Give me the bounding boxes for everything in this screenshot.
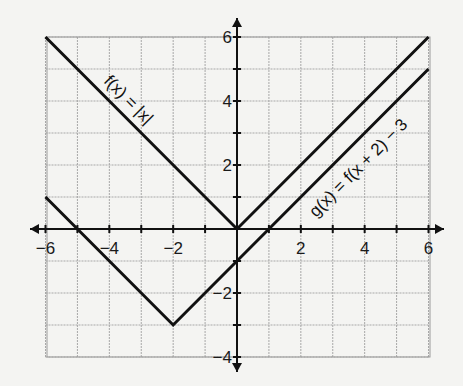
graph: −6−4−2246642−2−4 f(x) = |x| g(x) = f(x +… — [0, 0, 463, 386]
svg-text:2: 2 — [296, 239, 305, 258]
svg-text:6: 6 — [223, 28, 232, 47]
svg-text:−6: −6 — [36, 239, 55, 258]
svg-text:−2: −2 — [213, 284, 232, 303]
svg-text:−4: −4 — [213, 348, 232, 367]
svg-text:6: 6 — [424, 239, 433, 258]
svg-text:4: 4 — [223, 92, 232, 111]
axes — [30, 18, 444, 372]
svg-text:−4: −4 — [100, 239, 119, 258]
svg-text:4: 4 — [360, 239, 369, 258]
svg-text:2: 2 — [223, 156, 232, 175]
svg-text:−2: −2 — [163, 239, 182, 258]
g-label: g(x) = f(x + 2) − 3 — [305, 115, 411, 221]
